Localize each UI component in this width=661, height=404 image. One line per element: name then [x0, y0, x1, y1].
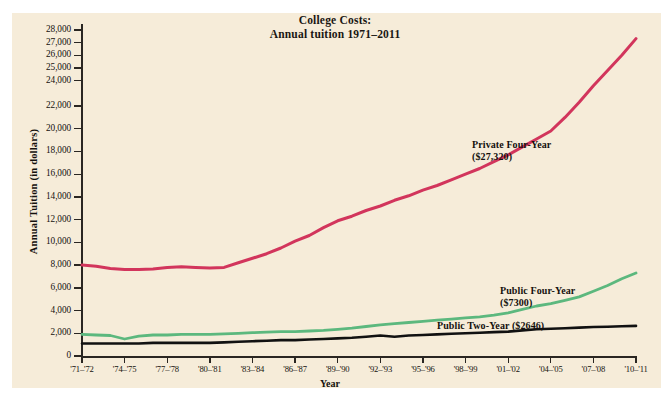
- annotation-public4-name: Public Four-Year: [500, 285, 575, 297]
- figure-root: College Costs: Annual tuition 1971–2011 …: [0, 0, 661, 404]
- annotation-private-four-year: Private Four-Year ($27,320): [472, 139, 551, 163]
- series-lines-layer: [0, 0, 661, 404]
- annotation-public-four-year: Public Four-Year ($7300): [500, 285, 575, 309]
- annotation-public4-value: ($7300): [500, 297, 575, 309]
- annotation-public2-name: Public Two-Year ($2646): [437, 320, 544, 332]
- series-line-private-four-year: [82, 39, 636, 270]
- annotation-public-two-year: Public Two-Year ($2646): [437, 320, 544, 332]
- annotation-private-value: ($27,320): [472, 151, 551, 163]
- annotation-private-name: Private Four-Year: [472, 139, 551, 151]
